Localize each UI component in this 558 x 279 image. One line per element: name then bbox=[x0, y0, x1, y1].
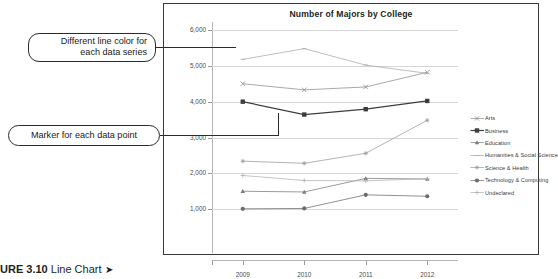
circle-marker bbox=[475, 178, 479, 182]
series-layer bbox=[212, 30, 458, 245]
legend-label: Technology & Computing bbox=[485, 177, 548, 183]
x-tick bbox=[243, 261, 244, 265]
plus-marker bbox=[302, 178, 306, 182]
series-humanities-social-science bbox=[241, 49, 430, 74]
legend-item-business[interactable]: Business bbox=[470, 124, 536, 136]
callout-line-color-text: Different line color for each data serie… bbox=[61, 36, 147, 58]
series-line bbox=[243, 72, 428, 90]
series-business bbox=[241, 99, 430, 117]
y-axis-label: 2,000 bbox=[160, 170, 206, 177]
callout-marker-leader-vertical bbox=[278, 113, 279, 136]
legend-label: Education bbox=[485, 140, 510, 146]
circle-marker bbox=[241, 207, 245, 211]
legend-item-technology-computing[interactable]: Technology & Computing bbox=[470, 174, 536, 186]
y-axis-label: 1,000 bbox=[160, 206, 206, 213]
x-axis-line bbox=[212, 260, 458, 261]
plus-marker bbox=[241, 173, 245, 177]
circle-marker bbox=[302, 206, 306, 210]
legend-label: Science & Health bbox=[485, 165, 529, 171]
series-education bbox=[241, 176, 430, 194]
legend-marker-triangle-icon bbox=[470, 138, 485, 147]
chart-frame: Number of Majors by College 1,0002,0003,… bbox=[163, 3, 539, 255]
legend-label: Business bbox=[485, 128, 508, 134]
legend-marker-square-icon bbox=[470, 126, 485, 135]
series-line bbox=[243, 175, 428, 180]
series-science-health bbox=[241, 118, 430, 165]
callout-marker-text: Marker for each data point bbox=[31, 130, 137, 141]
figure-number: URE 3.10 bbox=[0, 263, 48, 275]
star-marker bbox=[241, 159, 245, 163]
legend-marker-circle-icon bbox=[470, 176, 485, 185]
y-axis-label: 5,000 bbox=[160, 62, 206, 69]
chart-title: Number of Majors by College bbox=[164, 9, 538, 19]
legend-marker-star-icon bbox=[470, 163, 485, 172]
legend-label: Arts bbox=[485, 115, 495, 121]
series-line bbox=[243, 101, 428, 115]
x-axis-label: 2011 bbox=[346, 271, 386, 278]
x-axis-label: 2009 bbox=[223, 271, 263, 278]
y-axis-label: 4,000 bbox=[160, 98, 206, 105]
legend-item-education[interactable]: Education bbox=[470, 137, 536, 149]
callout-marker-leader-horizontal bbox=[160, 135, 279, 136]
figure-caption: URE 3.10 Line Chart ➤ bbox=[0, 263, 113, 275]
star-marker bbox=[425, 118, 429, 122]
x-tick bbox=[427, 261, 428, 265]
series-arts bbox=[241, 70, 430, 92]
figure-label: Line Chart bbox=[51, 263, 102, 275]
x-axis-label: 2012 bbox=[407, 271, 447, 278]
callout-marker: Marker for each data point bbox=[8, 125, 160, 146]
series-line bbox=[243, 120, 428, 163]
legend-label: Humanities & Social Science bbox=[485, 152, 558, 158]
x-tick bbox=[304, 261, 305, 265]
legend-item-humanities-social-science[interactable]: Humanities & Social Science bbox=[470, 149, 536, 161]
series-undeclared bbox=[241, 173, 430, 183]
square-marker bbox=[475, 128, 479, 132]
series-technology-computing bbox=[241, 193, 430, 211]
circle-marker bbox=[364, 193, 368, 197]
series-line bbox=[243, 49, 428, 74]
callout-color-leader-horizontal bbox=[156, 47, 236, 48]
legend-marker-dash-icon bbox=[470, 151, 485, 160]
x-tick-origin bbox=[212, 261, 213, 265]
square-marker bbox=[302, 112, 306, 116]
square-marker bbox=[425, 99, 429, 103]
square-marker bbox=[364, 107, 368, 111]
plus-marker bbox=[475, 190, 479, 194]
legend-marker-x-icon bbox=[470, 114, 485, 123]
chart-legend: ArtsBusinessEducationHumanities & Social… bbox=[470, 112, 536, 199]
callout-line-color: Different line color for each data serie… bbox=[28, 33, 156, 62]
y-axis-label: 6,000 bbox=[160, 26, 206, 33]
plot-area: 1,0002,0003,0004,0005,0006,000 200920102… bbox=[212, 30, 458, 245]
legend-item-science-health[interactable]: Science & Health bbox=[470, 162, 536, 174]
x-axis-label: 2010 bbox=[284, 271, 324, 278]
star-marker bbox=[475, 166, 479, 170]
arrow-icon: ➤ bbox=[105, 264, 113, 275]
legend-item-arts[interactable]: Arts bbox=[470, 112, 536, 124]
x-tick bbox=[366, 261, 367, 265]
legend-label: Undeclared bbox=[485, 190, 514, 196]
legend-marker-plus-icon bbox=[470, 188, 485, 197]
star-marker bbox=[302, 161, 306, 165]
star-marker bbox=[364, 151, 368, 155]
legend-item-undeclared[interactable]: Undeclared bbox=[470, 186, 536, 198]
series-line bbox=[243, 195, 428, 209]
circle-marker bbox=[425, 194, 429, 198]
square-marker bbox=[241, 99, 245, 103]
